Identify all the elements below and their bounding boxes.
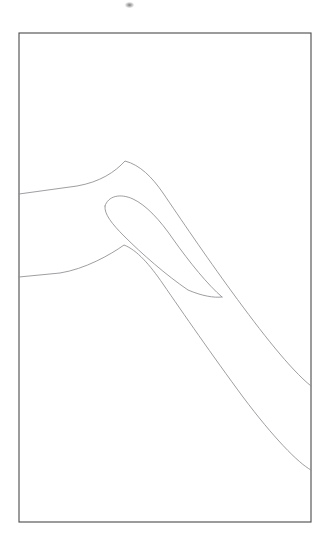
border-rectangle xyxy=(19,33,311,522)
line-drawing-svg xyxy=(0,0,333,556)
figure-canvas xyxy=(0,0,333,556)
outer-lower-contour xyxy=(19,245,311,470)
inner-hook-inner-edge xyxy=(105,206,222,297)
outer-upper-contour xyxy=(19,161,311,386)
